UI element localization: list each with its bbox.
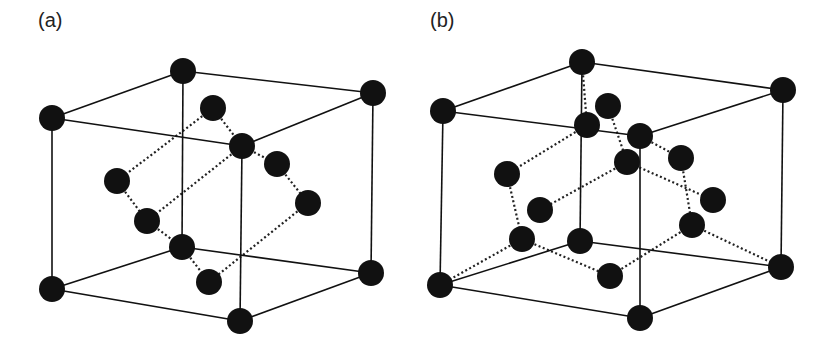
panel-a: [39, 58, 386, 334]
panel-b-label: (b): [430, 9, 454, 32]
atom: [39, 276, 65, 302]
cube-edge: [182, 71, 183, 247]
atom: [770, 77, 796, 103]
atom: [227, 308, 253, 334]
cube-edge: [440, 111, 443, 285]
cube-edge: [781, 90, 783, 267]
atom: [569, 49, 595, 75]
atom: [574, 112, 600, 138]
atom: [264, 151, 290, 177]
atom: [196, 269, 222, 295]
atom: [170, 58, 196, 84]
atom: [200, 95, 226, 121]
atom: [358, 260, 384, 286]
atom: [360, 80, 386, 106]
cube-edge: [183, 71, 373, 93]
atom: [527, 197, 553, 223]
cube-edge: [240, 273, 371, 321]
panel-b: [427, 49, 796, 331]
cube-edge: [440, 285, 640, 318]
cube-edge: [640, 90, 783, 136]
atom: [494, 161, 520, 187]
dotted-bond: [147, 146, 242, 221]
cube-edge: [443, 62, 582, 111]
cube-edge: [52, 247, 182, 289]
dotted-bond: [440, 239, 522, 285]
dotted-bond: [117, 108, 213, 181]
cube-edge: [240, 146, 242, 321]
dotted-bond: [507, 125, 587, 174]
cube-edge: [242, 93, 373, 146]
atom: [614, 149, 640, 175]
cube-edge: [582, 62, 783, 90]
cube-edge: [580, 62, 582, 241]
dotted-bond: [522, 239, 610, 276]
atom: [134, 208, 160, 234]
atom: [509, 226, 535, 252]
atom: [567, 228, 593, 254]
atom: [104, 168, 130, 194]
cube-edge: [640, 267, 781, 318]
panel-a-label: (a): [38, 9, 62, 32]
atom: [679, 212, 705, 238]
atom: [295, 190, 321, 216]
atom: [768, 254, 794, 280]
cube-edge: [52, 71, 183, 118]
atom: [597, 263, 623, 289]
atom: [668, 145, 694, 171]
atom: [169, 234, 195, 260]
atom: [430, 98, 456, 124]
cube-edge: [440, 241, 580, 285]
atom: [229, 133, 255, 159]
atom: [627, 305, 653, 331]
atom: [427, 272, 453, 298]
atom: [627, 123, 653, 149]
dotted-bond: [540, 162, 627, 210]
atom: [595, 93, 621, 119]
atom: [700, 187, 726, 213]
cube-edge: [371, 93, 373, 273]
dotted-bond: [209, 203, 308, 282]
atom: [39, 105, 65, 131]
crystal-lattice-svg: [0, 0, 830, 346]
cube-edge: [52, 118, 242, 146]
